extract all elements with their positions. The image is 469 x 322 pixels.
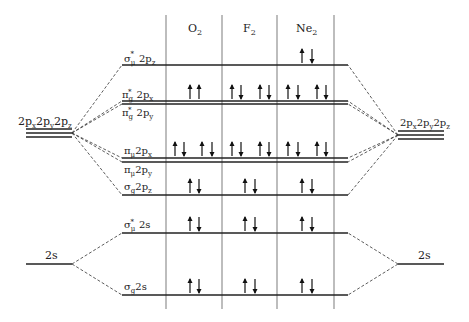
correlation-lines (72, 65, 398, 295)
label-left-2s: 2s (45, 250, 58, 261)
label-pi-g-star-2px: πg*2px (122, 89, 153, 103)
label-left-2p: 2px2py2pz (18, 116, 72, 130)
column-header-ne2: Ne2 (296, 23, 317, 37)
label-right-2p: 2px2py2pz (400, 118, 450, 131)
column-header-o2: O2 (188, 23, 202, 37)
label-sigma-g-2s: σg2s (124, 282, 147, 295)
mo-diagram (0, 0, 469, 322)
label-sigma-u-star-2pz: σμ*2pz (124, 53, 155, 67)
atomic-levels (26, 129, 444, 264)
label-pi-g-star-2py: πg*2py (122, 107, 153, 121)
label-pi-u-2px: πμ2px (124, 146, 152, 159)
mo-levels (122, 65, 348, 295)
label-pi-u-2py: πμ2py (124, 165, 152, 178)
electrons (173, 48, 329, 294)
label-right-2s: 2s (418, 250, 431, 261)
label-sigma-u-star-2s: σμ*2s (124, 219, 150, 233)
column-header-f2: F2 (243, 23, 256, 37)
label-sigma-g-2pz: σg2pz (124, 182, 152, 195)
